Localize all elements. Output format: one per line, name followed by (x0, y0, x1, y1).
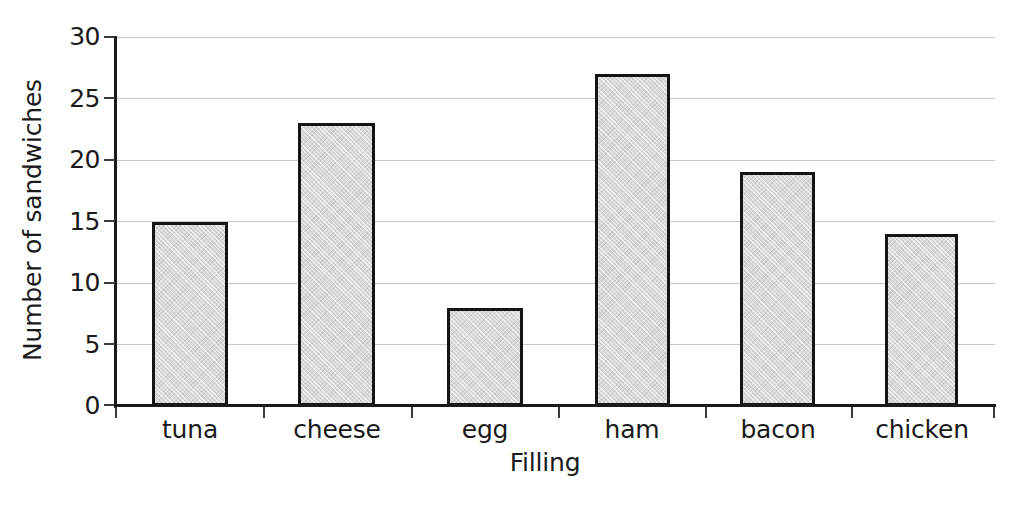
y-tick-20 (104, 159, 115, 161)
y-tick-15 (104, 220, 115, 222)
gridline-10 (117, 283, 995, 284)
gridline-30 (117, 37, 995, 38)
bar-chart: Number of sandwiches 30 25 20 15 10 5 0 (0, 0, 1025, 506)
gridline-25 (117, 98, 995, 99)
x-tick-label-chicken: chicken (832, 415, 1012, 444)
y-tick-5 (104, 343, 115, 345)
y-axis-line (114, 36, 117, 408)
y-tick-label-20: 20 (28, 147, 100, 172)
y-tick-label-5: 5 (28, 332, 100, 357)
gridline-5 (117, 344, 995, 345)
plot-area (117, 37, 995, 406)
x-axis-title: Filling (455, 448, 635, 477)
bar-egg[interactable] (447, 308, 523, 406)
y-tick-label-15: 15 (28, 209, 100, 234)
y-tick-label-25: 25 (28, 86, 100, 111)
y-tick-label-30: 30 (28, 24, 100, 49)
gridline-15 (117, 221, 995, 222)
bar-ham[interactable] (595, 74, 670, 406)
y-tick-label-10: 10 (28, 270, 100, 295)
bar-chicken[interactable] (885, 234, 958, 406)
bar-tuna[interactable] (152, 222, 228, 407)
y-tick-label-0: 0 (28, 393, 100, 418)
y-tick-30 (104, 36, 115, 38)
gridline-20 (117, 160, 995, 161)
bar-bacon[interactable] (740, 172, 815, 406)
y-tick-25 (104, 97, 115, 99)
y-tick-10 (104, 282, 115, 284)
x-axis-line (114, 404, 996, 407)
bar-cheese[interactable] (298, 123, 375, 406)
